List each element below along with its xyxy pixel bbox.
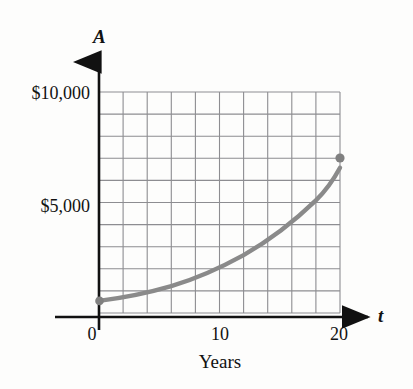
x-axis-symbol-label: t [378, 306, 383, 325]
y-axis-symbol-label: A [93, 27, 106, 46]
x-axis-caption: Years [160, 352, 280, 371]
y-tick-label-5000: $5,000 [0, 197, 90, 215]
curve-end-marker [335, 153, 344, 162]
x-tick-label-0: 0 [79, 325, 105, 343]
x-tick-label-10: 10 [203, 325, 237, 343]
exponential-growth-chart: A t $10,000 $5,000 0 10 20 Years [0, 0, 413, 389]
x-tick-label-20: 20 [322, 325, 356, 343]
grid-lines [99, 92, 340, 313]
y-tick-label-10000: $10,000 [0, 84, 90, 102]
curve-start-marker [95, 297, 104, 306]
